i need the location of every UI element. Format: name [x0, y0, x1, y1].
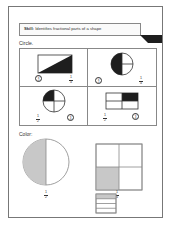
color-rectangle-stripes[interactable]: [95, 193, 117, 214]
color-square-quarters[interactable]: [95, 143, 143, 191]
problem-4: 1 2 1 4: [88, 87, 156, 125]
problem-2: 1 2 1 4: [88, 49, 156, 87]
problem-1: 1 2 1 4: [20, 49, 88, 87]
color-circle-halves[interactable]: [21, 137, 71, 187]
circle-problems-grid: 1 2 1 4 1 2 1 4: [19, 48, 157, 126]
worksheet-page: Skill: Identifies fractional parts of a …: [8, 6, 163, 218]
rectangle-quarters-shape: [88, 87, 157, 126]
option-one-half-circled[interactable]: 1 2: [95, 77, 102, 84]
skill-text: Skill: Identifies fractional parts of a …: [24, 26, 101, 31]
option-one-half[interactable]: 1 2: [35, 115, 41, 123]
problem-3: 1 2 1 4: [20, 87, 88, 125]
circle-instruction: Circle.: [19, 40, 33, 46]
skill-header: Skill: Identifies fractional parts of a …: [19, 23, 141, 36]
color-fraction-one-half: 1 2: [43, 191, 49, 199]
pencil-icon: ✎: [155, 21, 160, 28]
circle-quarters-shape: [20, 87, 89, 126]
rectangle-diagonal-shape: [20, 49, 89, 88]
review-ribbon: Review ✎: [140, 21, 162, 43]
option-one-quarter[interactable]: 1 4: [68, 76, 74, 84]
option-one-half[interactable]: 1 2: [102, 114, 108, 122]
option-one-quarter-circled[interactable]: 1 4: [132, 113, 139, 120]
option-one-quarter-circled[interactable]: 1 4: [67, 114, 74, 121]
option-one-quarter[interactable]: 1 4: [138, 77, 144, 85]
option-one-half-circled[interactable]: 1 2: [35, 75, 42, 82]
